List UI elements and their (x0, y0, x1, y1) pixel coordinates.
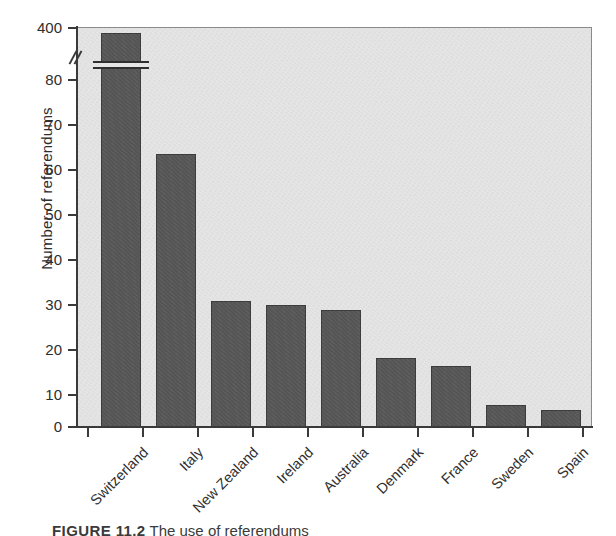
figure-caption: FIGURE 11.2 The use of referendums (52, 522, 309, 536)
bar-spain (541, 410, 581, 427)
bar-denmark (376, 358, 416, 427)
x-tick-mark-4 (307, 428, 309, 437)
y-tick-label-40: 40 (2, 251, 62, 268)
x-tick-mark-9 (582, 428, 584, 437)
bar-switzerland (101, 33, 141, 427)
y-tick-mark-70 (68, 124, 76, 126)
bar-ireland (266, 305, 306, 427)
y-axis-title: Number of referendums (38, 59, 55, 319)
x-tick-mark-0 (87, 428, 89, 437)
x-axis-line (76, 426, 593, 428)
y-tick-label-70: 70 (2, 116, 62, 133)
bar-italy (156, 154, 196, 427)
x-tick-mark-2 (197, 428, 199, 437)
y-tick-mark-30 (68, 304, 76, 306)
x-tick-mark-6 (417, 428, 419, 437)
x-tick-mark-5 (362, 428, 364, 437)
bar-break-switzerland (93, 61, 149, 69)
figure-caption-text: The use of referendums (150, 522, 309, 536)
y-tick-mark-40 (68, 259, 76, 261)
x-tick-mark-7 (472, 428, 474, 437)
y-tick-label-50: 50 (2, 206, 62, 223)
y-tick-mark-20 (68, 349, 76, 351)
y-tick-mark-80 (68, 79, 76, 81)
y-tick-mark-400 (68, 27, 76, 29)
x-tick-mark-1 (142, 428, 144, 437)
figure-caption-number: FIGURE 11.2 (52, 522, 146, 536)
figure-referendums-bar-chart: Number of referendums 400 80 70 60 50 40… (0, 0, 616, 536)
y-tick-mark-50 (68, 214, 76, 216)
y-tick-label-30: 30 (2, 296, 62, 313)
y-tick-mark-0 (68, 426, 76, 428)
y-tick-label-400: 400 (2, 19, 62, 36)
bar-new-zealand (211, 301, 251, 427)
y-tick-label-60: 60 (2, 161, 62, 178)
plot-area (77, 27, 592, 427)
y-tick-label-0: 0 (2, 418, 62, 435)
y-tick-label-20: 20 (2, 341, 62, 358)
bar-australia (321, 310, 361, 427)
x-tick-mark-3 (252, 428, 254, 437)
bar-france (431, 366, 471, 427)
y-axis-line (76, 26, 78, 428)
y-tick-label-10: 10 (2, 386, 62, 403)
y-tick-mark-60 (68, 169, 76, 171)
y-tick-mark-10 (68, 394, 76, 396)
axis-break-icon (68, 48, 84, 70)
bar-sweden (486, 405, 526, 427)
x-tick-mark-8 (527, 428, 529, 437)
y-tick-label-80: 80 (2, 71, 62, 88)
